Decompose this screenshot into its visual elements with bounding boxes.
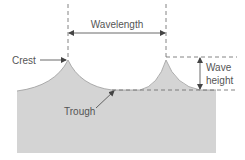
- wave-height-label-line1: Wave: [206, 62, 232, 73]
- wave-height-label-line2: height: [206, 75, 233, 86]
- trough-label: Trough: [64, 106, 95, 117]
- wave-diagram: Wavelength Wave height Crest Trough: [0, 0, 245, 160]
- water-body: [17, 60, 216, 153]
- wavelength-label: Wavelength: [91, 19, 143, 30]
- crest-label: Crest: [12, 55, 36, 66]
